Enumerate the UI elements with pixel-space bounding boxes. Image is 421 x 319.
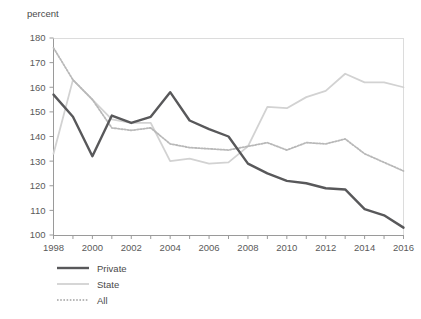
line-chart: percent 180170160150140130120110100 1998… [0, 0, 421, 319]
y-tick-label: 150 [30, 106, 46, 117]
x-tick-label: 2016 [393, 242, 414, 253]
x-tick-label: 1998 [43, 242, 64, 253]
chart-canvas: percent 180170160150140130120110100 1998… [0, 0, 421, 319]
x-tick-label: 2010 [276, 242, 297, 253]
legend-label-state: State [97, 279, 119, 290]
y-tick-label: 120 [30, 180, 46, 191]
y-tick-label: 180 [30, 32, 46, 43]
y-tick-label: 140 [30, 131, 46, 142]
legend-label-all: All [97, 295, 108, 306]
x-tick-label: 2012 [315, 242, 336, 253]
y-tick-label: 100 [30, 229, 46, 240]
x-tick-label: 2014 [354, 242, 375, 253]
y-tick-label: 160 [30, 82, 46, 93]
x-tick-label: 2006 [198, 242, 219, 253]
x-tick-label: 2002 [121, 242, 142, 253]
x-tick-label: 2008 [237, 242, 258, 253]
y-axis-title: percent [27, 8, 59, 19]
y-tick-label: 170 [30, 57, 46, 68]
x-tick-label: 2000 [82, 242, 103, 253]
chart-background [0, 0, 421, 319]
x-tick-label: 2004 [160, 242, 181, 253]
y-tick-label: 110 [30, 205, 45, 216]
legend-label-private: Private [97, 263, 127, 274]
y-tick-label: 130 [30, 156, 46, 167]
